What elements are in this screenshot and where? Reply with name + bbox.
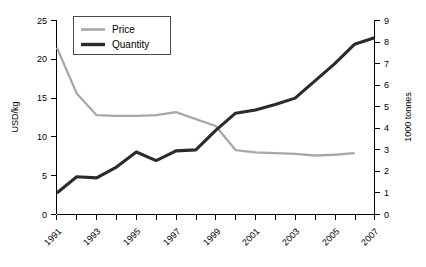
right-tick-label: 8 [384, 37, 389, 47]
left-tick-label: 10 [37, 132, 47, 142]
left-axis-title: USD/kg [10, 101, 20, 132]
right-tick-label: 1 [384, 188, 389, 198]
right-tick-label: 9 [384, 16, 389, 26]
right-tick-label: 6 [384, 80, 389, 90]
left-tick-label: 15 [37, 93, 47, 103]
right-tick-label: 5 [384, 102, 389, 112]
right-tick-label: 4 [384, 123, 389, 133]
legend-label-quantity: Quantity [112, 39, 149, 50]
left-tick-label: 5 [42, 171, 47, 181]
left-tick-label: 0 [42, 210, 47, 220]
left-tick-label: 20 [37, 54, 47, 64]
right-tick-label: 0 [384, 210, 389, 220]
right-tick-label: 3 [384, 145, 389, 155]
right-tick-label: 2 [384, 166, 389, 176]
dual-axis-line-chart: 25 20 15 10 5 0 USD/kg 9 [0, 0, 426, 267]
right-tick-label: 7 [384, 59, 389, 69]
chart-legend: Price Quantity [74, 17, 171, 55]
right-axis-title: 1000 tonnes [403, 92, 413, 142]
legend-label-price: Price [112, 24, 135, 35]
left-tick-label: 25 [37, 16, 47, 26]
chart-figure: 25 20 15 10 5 0 USD/kg 9 [0, 0, 426, 267]
